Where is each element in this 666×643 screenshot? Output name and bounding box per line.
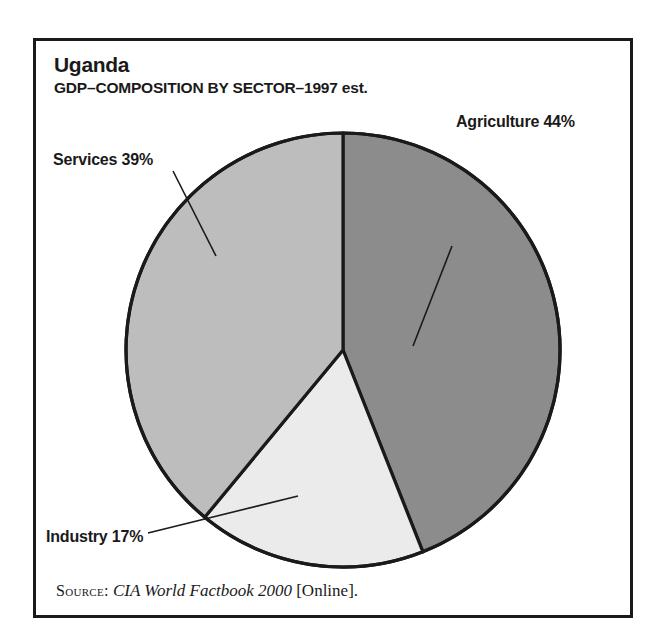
chart-subtitle: GDP–COMPOSITION BY SECTOR–1997 est. xyxy=(54,79,368,97)
pie-outline xyxy=(126,133,560,567)
leader-lines xyxy=(148,171,452,533)
source-title: CIA World Factbook 2000 xyxy=(113,581,292,600)
pie-slices xyxy=(126,133,560,567)
figure-frame: Uganda GDP–COMPOSITION BY SECTOR–1997 es… xyxy=(33,38,633,618)
pie-slice-services xyxy=(126,133,343,517)
pie-slice-agriculture xyxy=(343,133,560,552)
title-block: Uganda GDP–COMPOSITION BY SECTOR–1997 es… xyxy=(54,54,368,97)
pie-label-agriculture: Agriculture 44% xyxy=(456,113,575,131)
source-label: Source: xyxy=(56,582,109,599)
leader-line-agriculture xyxy=(413,246,452,346)
source-line: Source: CIA World Factbook 2000 [Online]… xyxy=(56,581,358,601)
pie-label-services: Services 39% xyxy=(53,151,153,169)
pie-slice-industry xyxy=(205,350,423,567)
page-title: Uganda xyxy=(54,54,368,76)
leader-line-services xyxy=(173,171,216,256)
pie-label-industry: Industry 17% xyxy=(46,528,143,546)
leader-line-industry xyxy=(148,496,298,533)
source-suffix: [Online]. xyxy=(296,581,358,600)
